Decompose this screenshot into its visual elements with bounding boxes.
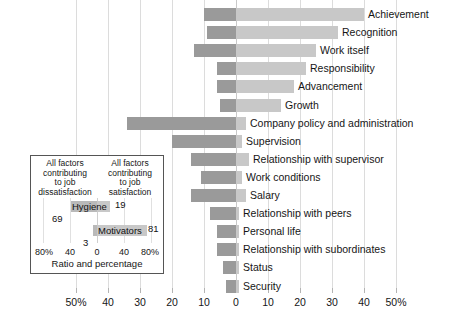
bar-category-label: Relationship with peers <box>243 206 352 220</box>
bar-category-label: Recognition <box>342 25 397 39</box>
axis-tick-label: 50% <box>376 296 416 308</box>
inset-value-hygiene-left: 69 <box>52 213 63 224</box>
bar-satisfaction <box>236 189 246 202</box>
bar-satisfaction <box>236 26 338 39</box>
bar-dissatisfaction <box>191 153 236 166</box>
bar-satisfaction <box>236 225 239 238</box>
herzberg-two-factor-chart: 50%4030201001020304050%AchievementRecogn… <box>0 0 450 317</box>
inset-xtick-label: 0 <box>86 247 108 257</box>
bar-row: Growth <box>0 99 450 112</box>
bar-category-label: Status <box>243 260 273 274</box>
inset-gridline <box>43 198 44 243</box>
inset-xtick-label: 40 <box>58 247 82 257</box>
bar-dissatisfaction <box>217 243 236 256</box>
bar-category-label: Work itself <box>320 43 369 57</box>
bar-dissatisfaction <box>217 225 236 238</box>
bar-category-label: Company policy and administration <box>250 116 413 130</box>
inset-axis-title: Ratio and percentage <box>31 258 163 269</box>
bar-dissatisfaction <box>217 80 236 93</box>
bar-category-label: Achievement <box>368 7 429 21</box>
inset-header-left: All factorscontributingto jobdissatisfac… <box>33 159 97 197</box>
inset-value-motivators-right: 81 <box>148 223 159 234</box>
bar-category-label: Personal life <box>243 224 301 238</box>
bar-category-label: Work conditions <box>246 170 321 184</box>
bar-category-label: Security <box>243 279 281 293</box>
bar-satisfaction <box>236 99 281 112</box>
bar-satisfaction <box>236 153 249 166</box>
bar-satisfaction <box>236 280 239 293</box>
bar-satisfaction <box>236 261 239 274</box>
bar-satisfaction <box>236 207 239 220</box>
bar-row: Supervision <box>0 135 450 148</box>
bar-satisfaction <box>236 243 239 256</box>
bar-satisfaction <box>236 135 242 148</box>
bar-satisfaction <box>236 171 242 184</box>
bar-dissatisfaction <box>207 26 236 39</box>
bar-dissatisfaction <box>210 207 236 220</box>
bar-row: Security <box>0 280 450 293</box>
inset-gridline <box>151 198 152 243</box>
bar-dissatisfaction <box>191 189 236 202</box>
bar-dissatisfaction <box>226 280 236 293</box>
bar-satisfaction <box>236 44 316 57</box>
bar-dissatisfaction <box>223 261 236 274</box>
inset-xtick-label: 80% <box>31 247 57 257</box>
inset-xtick-label: 40 <box>112 247 136 257</box>
bar-satisfaction <box>236 62 306 75</box>
bar-row: Achievement <box>0 8 450 21</box>
bar-category-label: Advancement <box>298 79 362 93</box>
bar-dissatisfaction <box>194 44 236 57</box>
bar-satisfaction <box>236 80 294 93</box>
bar-category-label: Relationship with subordinates <box>243 242 385 256</box>
bar-satisfaction <box>236 8 364 21</box>
inset-bar-label-hygiene: Hygiene <box>72 201 107 212</box>
bar-row: Work itself <box>0 44 450 57</box>
inset-xtick-label: 80% <box>137 247 163 257</box>
bar-row: Recognition <box>0 26 450 39</box>
bar-category-label: Growth <box>285 98 319 112</box>
bar-category-label: Relationship with supervisor <box>253 152 384 166</box>
bar-row: Company policy and administration <box>0 117 450 130</box>
bar-dissatisfaction <box>127 117 236 130</box>
bar-dissatisfaction <box>201 171 236 184</box>
bar-category-label: Salary <box>250 188 280 202</box>
inset-bar-label-motivators: Motivators <box>98 225 142 236</box>
bar-dissatisfaction <box>220 99 236 112</box>
bar-row: Advancement <box>0 80 450 93</box>
bar-dissatisfaction <box>172 135 236 148</box>
inset-summary-panel: All factorscontributingto jobdissatisfac… <box>30 155 164 274</box>
bar-row: Responsibility <box>0 62 450 75</box>
bar-category-label: Supervision <box>246 134 301 148</box>
bar-category-label: Responsibility <box>310 61 375 75</box>
inset-header-right: All factorscontributingto jobsatisfactio… <box>98 159 162 197</box>
inset-value-hygiene-right: 19 <box>115 199 126 210</box>
bar-dissatisfaction <box>217 62 236 75</box>
bar-satisfaction <box>236 117 246 130</box>
bar-dissatisfaction <box>204 8 236 21</box>
